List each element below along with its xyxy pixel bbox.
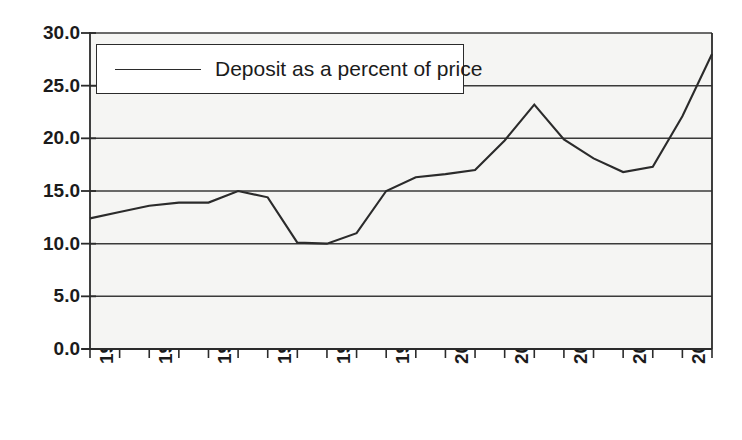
chart-legend: Deposit as a percent of price	[96, 44, 464, 94]
line-swatch-icon	[115, 59, 201, 79]
legend-item-label: Deposit as a percent of price	[215, 57, 482, 81]
legend-line-sample	[115, 69, 201, 70]
line-chart-figure: 30.025.020.015.010.05.00.0 1988199019921…	[0, 0, 742, 440]
